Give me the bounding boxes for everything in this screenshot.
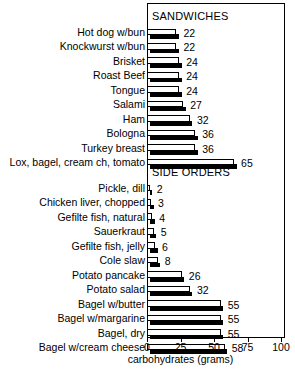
bar-value-label: 36 <box>202 143 214 155</box>
bar-row: Knockwurst w/bun22 <box>0 41 295 57</box>
x-axis-tick-label: 50 <box>208 341 220 353</box>
category-label: Knockwurst w/bun <box>60 41 145 52</box>
bar-row: Bologna36 <box>0 128 295 144</box>
bar-value-label: 55 <box>228 313 240 325</box>
bar-face <box>147 329 221 336</box>
bar <box>147 183 154 199</box>
bar-face <box>147 315 221 322</box>
bar-row: Potato salad32 <box>0 284 295 300</box>
bar-value-label: 55 <box>228 299 240 311</box>
bar-value-label: 27 <box>190 99 202 111</box>
bar <box>147 299 225 315</box>
category-label: Bagel, dry <box>98 328 145 339</box>
category-label: Bagel w/butter <box>78 299 145 310</box>
bar-face <box>147 228 154 235</box>
bar-value-label: 32 <box>197 284 209 296</box>
category-label: Chicken liver, chopped <box>39 197 145 208</box>
bar-face <box>147 101 183 108</box>
bar <box>147 284 194 300</box>
carbohydrate-bar-chart: SANDWICHES SIDE ORDERS Hot dog w/bun22Kn… <box>0 0 295 372</box>
bar-face <box>147 257 158 264</box>
bar-row: Gefilte fish, natural4 <box>0 212 295 228</box>
bar-value-label: 2 <box>157 183 163 195</box>
bar-row: Tongue24 <box>0 85 295 101</box>
bar-row: Ham32 <box>0 114 295 130</box>
category-label: Bologna <box>106 128 145 139</box>
category-label: Pickle, dill <box>98 183 145 194</box>
bar-face <box>147 286 190 293</box>
bar-face <box>147 185 150 192</box>
bar <box>147 241 159 257</box>
category-label: Gefilte fish, jelly <box>71 241 145 252</box>
bar-value-label: 5 <box>161 226 167 238</box>
category-label: Bagel w/margarine <box>57 313 145 324</box>
category-label: Tongue <box>111 85 145 96</box>
bar-row: Potato pancake26 <box>0 270 295 286</box>
bar-row: Salami27 <box>0 99 295 115</box>
bar <box>147 197 155 213</box>
bar <box>147 255 162 271</box>
bar-face <box>147 57 179 64</box>
category-label: Bagel w/cream cheese <box>39 342 145 353</box>
bar-value-label: 4 <box>159 212 165 224</box>
bar-row: Hot dog w/bun22 <box>0 27 295 43</box>
category-label: Roast Beef <box>93 70 145 81</box>
bar <box>147 128 199 144</box>
bar-face <box>147 199 151 206</box>
bar-value-label: 26 <box>189 270 201 282</box>
bar-row: Lox, bagel, cream ch, tomato65 <box>0 157 295 173</box>
x-axis-title-text: carbohydrates (grams) <box>128 353 234 365</box>
bar <box>147 70 183 86</box>
bar-value-label: 6 <box>162 241 168 253</box>
bar-row: Gefilte fish, jelly6 <box>0 241 295 257</box>
bar-face <box>147 72 179 79</box>
bar-face <box>147 43 176 50</box>
category-label: Ham <box>123 114 145 125</box>
category-label: Potato salad <box>87 284 145 295</box>
bar-value-label: 24 <box>186 56 198 68</box>
bar <box>147 41 180 57</box>
category-label: Salami <box>113 99 145 110</box>
bar-face <box>147 271 182 278</box>
bar <box>147 56 183 72</box>
bar-row: Cole slaw8 <box>0 255 295 271</box>
bar <box>147 313 225 329</box>
bar-row: Chicken liver, chopped3 <box>0 197 295 213</box>
x-axis-tick-label: 25 <box>175 341 187 353</box>
bar-face <box>147 242 155 249</box>
bar-row: Sauerkraut5 <box>0 226 295 242</box>
x-axis-tick-label: 0 <box>144 341 150 353</box>
bar-row: Brisket24 <box>0 56 295 72</box>
category-label: Sauerkraut <box>94 226 145 237</box>
bar-value-label: 55 <box>228 328 240 340</box>
bar-face <box>147 130 195 137</box>
x-axis-title: carbohydrates (grams) <box>0 353 295 365</box>
x-axis-tick-label: 100 <box>272 341 290 353</box>
bar-face <box>147 86 179 93</box>
bar <box>147 212 156 228</box>
bar <box>147 27 180 43</box>
bar-value-label: 3 <box>158 197 164 209</box>
category-label: Turkey breast <box>81 143 145 154</box>
bar-value-label: 24 <box>186 70 198 82</box>
bar <box>147 85 183 101</box>
bar-row: Bagel w/butter55 <box>0 299 295 315</box>
bar <box>147 157 238 173</box>
bar-face <box>147 144 195 151</box>
bar-shadow <box>150 190 153 195</box>
bar-face <box>147 29 176 36</box>
bar <box>147 226 158 242</box>
bar-value-label: 22 <box>183 27 195 39</box>
bar-face <box>147 115 190 122</box>
bar-face <box>147 300 221 307</box>
category-label: Lox, bagel, cream ch, tomato <box>10 157 145 168</box>
bar <box>147 99 187 115</box>
bar-row: Bagel w/margarine55 <box>0 313 295 329</box>
bar-value-label: 65 <box>241 157 253 169</box>
bar <box>147 114 194 130</box>
bar-value-label: 22 <box>183 41 195 53</box>
bar-value-label: 32 <box>197 114 209 126</box>
category-label: Brisket <box>113 56 145 67</box>
bar-value-label: 24 <box>186 85 198 97</box>
category-label: Gefilte fish, natural <box>57 212 145 223</box>
